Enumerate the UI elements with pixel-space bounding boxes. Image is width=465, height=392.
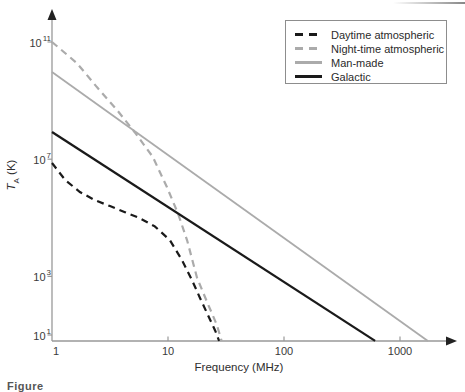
- y-tick-exponent: 3: [47, 268, 51, 277]
- legend-label: Night-time atmospheric: [331, 43, 444, 55]
- legend-label: Man-made: [331, 57, 384, 69]
- curve-galactic: [52, 132, 375, 341]
- legend-sample-galactic: [295, 75, 322, 78]
- y-axis-label: TA (K): [5, 160, 20, 191]
- legend-sample-daytime-atmospheric: [295, 33, 322, 36]
- x-tick-label-1: 1: [53, 345, 59, 357]
- x-tick-label-1000: 1000: [388, 345, 412, 357]
- curve-daytime-atmospheric: [52, 163, 219, 341]
- y-tick-label-1e3: 103: [33, 269, 51, 283]
- legend-item-man-made: Man-made: [295, 56, 446, 69]
- legend-sample-man-made: [295, 61, 322, 63]
- legend-label: Daytime atmospheric: [331, 29, 434, 41]
- y-tick-base: 10: [33, 271, 45, 283]
- legend-item-daytime-atmospheric: Daytime atmospheric: [295, 28, 446, 41]
- y-axis-label-symbol: T: [5, 183, 17, 190]
- curve-night-time-atmospheric: [52, 42, 222, 341]
- legend-label: Galactic: [331, 71, 371, 83]
- y-tick-exponent: 1: [47, 327, 51, 336]
- legend-box: Daytime atmospheric Night-time atmospher…: [285, 20, 447, 84]
- caption-fragment: Figure: [7, 380, 44, 392]
- x-tick-label-10: 10: [162, 345, 174, 357]
- legend-item-galactic: Galactic: [295, 70, 446, 83]
- x-tick-label-100: 100: [275, 345, 293, 357]
- legend-sample-night-time-atmospheric: [295, 47, 322, 50]
- legend-item-night-time-atmospheric: Night-time atmospheric: [295, 42, 446, 55]
- y-tick-base: 10: [33, 330, 45, 342]
- y-axis-label-subscript: A: [12, 178, 21, 183]
- y-tick-label-1e7: 107: [33, 152, 51, 166]
- y-axis-label-unit: (K): [5, 160, 17, 179]
- y-tick-label-1e1: 101: [33, 328, 51, 342]
- y-tick-base: 10: [29, 37, 41, 49]
- curves: [52, 42, 428, 341]
- y-tick-exponent: 7: [47, 151, 51, 160]
- y-tick-base: 10: [33, 154, 45, 166]
- y-tick-label-1e11: 1011: [29, 35, 51, 49]
- x-axis-label: Frequency (MHz): [195, 361, 284, 373]
- y-tick-exponent: 11: [43, 34, 51, 43]
